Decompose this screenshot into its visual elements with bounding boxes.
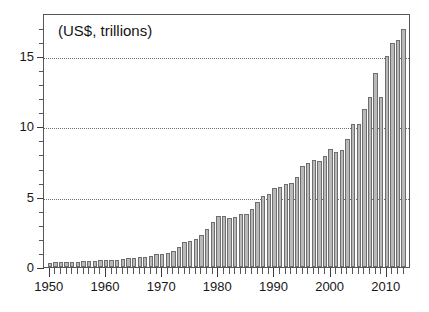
x-tick-1991 xyxy=(279,268,280,274)
x-tick-2000 xyxy=(330,268,331,277)
bar xyxy=(160,254,164,267)
bar-series xyxy=(44,15,409,267)
x-tick-1959 xyxy=(99,268,100,274)
x-tick-1986 xyxy=(251,268,252,274)
bar xyxy=(132,258,136,267)
bar xyxy=(239,214,243,267)
bar xyxy=(81,261,85,267)
x-tick-2009 xyxy=(380,268,381,274)
x-tick-2010 xyxy=(386,268,387,277)
bar xyxy=(48,263,52,267)
plot-area xyxy=(43,14,410,268)
bar xyxy=(345,139,349,267)
bar xyxy=(267,194,271,267)
bar xyxy=(205,229,209,267)
x-tick-2006 xyxy=(363,268,364,274)
plot-inner xyxy=(44,15,409,267)
bar xyxy=(143,257,147,267)
x-tick-1982 xyxy=(229,268,230,274)
bar xyxy=(255,202,259,267)
bar xyxy=(222,216,226,267)
x-tick-2003 xyxy=(346,268,347,274)
bar xyxy=(115,260,119,267)
x-tick-1977 xyxy=(200,268,201,274)
bar xyxy=(211,222,215,267)
bar xyxy=(312,160,316,267)
x-tick-1960 xyxy=(105,268,106,277)
x-tick-1952 xyxy=(60,268,61,274)
bar xyxy=(272,188,276,267)
bar xyxy=(188,241,192,267)
x-tick-1962 xyxy=(116,268,117,274)
x-tick-2013 xyxy=(403,268,404,274)
x-tick-2008 xyxy=(375,268,376,274)
bar xyxy=(306,163,310,267)
chart-figure: 051015 (US$, trillions) 1950196019701980… xyxy=(0,0,429,312)
bar xyxy=(261,196,265,267)
y-tick-label-0: 0 xyxy=(4,261,34,274)
x-tick-1967 xyxy=(144,268,145,274)
x-tick-1997 xyxy=(313,268,314,274)
bar xyxy=(109,260,113,267)
x-tick-label-1970: 1970 xyxy=(139,280,183,294)
x-tick-label-1990: 1990 xyxy=(251,280,295,294)
x-tick-2002 xyxy=(341,268,342,274)
x-tick-1970 xyxy=(161,268,162,277)
x-tick-1972 xyxy=(172,268,173,274)
x-tick-1969 xyxy=(156,268,157,274)
x-tick-1976 xyxy=(195,268,196,274)
y-tick-label-10: 10 xyxy=(4,120,34,133)
x-tick-2004 xyxy=(352,268,353,274)
bar xyxy=(362,109,366,267)
x-tick-label-1980: 1980 xyxy=(195,280,239,294)
y-tick-0 xyxy=(37,268,44,269)
bar xyxy=(64,262,68,267)
x-tick-1954 xyxy=(71,268,72,274)
bar xyxy=(98,260,102,267)
x-tick-1985 xyxy=(245,268,246,274)
x-tick-1993 xyxy=(290,268,291,274)
x-tick-1974 xyxy=(184,268,185,274)
bar xyxy=(328,149,332,267)
bar xyxy=(300,166,304,267)
x-tick-1989 xyxy=(268,268,269,274)
x-tick-1950 xyxy=(49,268,50,277)
x-tick-1979 xyxy=(212,268,213,274)
bar xyxy=(93,261,97,267)
x-tick-1973 xyxy=(178,268,179,274)
bar xyxy=(138,257,142,267)
x-tick-1975 xyxy=(189,268,190,274)
bar xyxy=(227,218,231,267)
y-tick-label-15: 15 xyxy=(4,50,34,63)
bar xyxy=(104,260,108,267)
x-tick-1999 xyxy=(324,268,325,274)
x-tick-1957 xyxy=(88,268,89,274)
x-tick-1992 xyxy=(285,268,286,274)
bar xyxy=(379,97,383,267)
x-tick-1963 xyxy=(122,268,123,274)
x-tick-1964 xyxy=(127,268,128,274)
bar xyxy=(154,254,158,267)
bar xyxy=(182,242,186,267)
units-annotation: (US$, trillions) xyxy=(58,22,152,39)
bar xyxy=(199,235,203,267)
bar xyxy=(126,258,130,267)
x-tick-label-2010: 2010 xyxy=(364,280,408,294)
x-tick-1955 xyxy=(77,268,78,274)
bar xyxy=(244,214,248,267)
x-tick-1953 xyxy=(66,268,67,274)
bar xyxy=(166,253,170,267)
bar xyxy=(171,251,175,267)
x-tick-label-1960: 1960 xyxy=(83,280,127,294)
x-tick-1983 xyxy=(234,268,235,274)
bar xyxy=(53,262,57,267)
x-tick-1958 xyxy=(94,268,95,274)
x-tick-1995 xyxy=(302,268,303,274)
bar xyxy=(368,97,372,267)
bar xyxy=(396,40,400,267)
x-tick-1980 xyxy=(217,268,218,277)
bar xyxy=(250,209,254,267)
x-tick-1994 xyxy=(296,268,297,274)
x-tick-1981 xyxy=(223,268,224,274)
bar xyxy=(121,259,125,267)
